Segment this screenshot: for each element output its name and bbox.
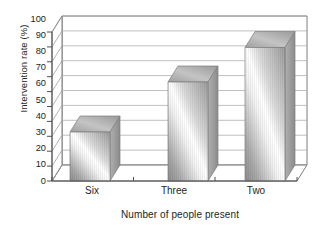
- x-tick-label-six: Six: [57, 186, 127, 196]
- bar-two-side: [285, 32, 295, 182]
- bar-three[interactable]: [168, 66, 218, 181]
- x-tick-label-two: Two: [221, 186, 291, 196]
- bar-two[interactable]: [245, 32, 295, 182]
- x-axis-title: Number of people present: [52, 209, 308, 220]
- bar-six[interactable]: [70, 116, 120, 181]
- y-axis-line: [47, 32, 52, 181]
- bar-three-side: [208, 66, 218, 181]
- bar-chart: Intervention rate (%) 100 90 80 70 60 50…: [0, 0, 322, 227]
- x-tick-label-three: Three: [139, 186, 209, 196]
